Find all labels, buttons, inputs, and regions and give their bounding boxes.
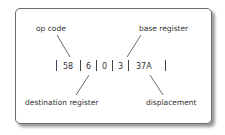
base-register-leader-line	[127, 35, 141, 57]
displacement-leader-line	[150, 75, 163, 95]
leader-lines	[0, 0, 225, 135]
destination-register-leader-line	[76, 75, 89, 95]
op-code-leader-line	[57, 35, 70, 57]
